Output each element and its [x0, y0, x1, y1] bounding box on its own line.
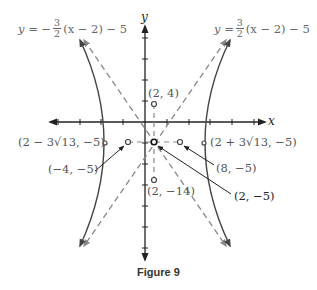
x-axis-label: x — [268, 114, 275, 128]
point-top — [152, 102, 157, 107]
label-focus-left: (2 − 3√13, −5) — [18, 135, 105, 149]
eq-right-suffix: (x − 2) − 5 — [246, 22, 310, 36]
x-axis — [50, 119, 265, 125]
vertex-left — [126, 140, 131, 145]
label-focus-right: (2 + 3√13, −5) — [210, 135, 297, 149]
center-point — [151, 139, 157, 145]
figure-caption: Figure 9 — [0, 266, 317, 278]
point-bottom — [152, 178, 157, 183]
label-center: (2, −5) — [234, 189, 275, 203]
asymptote-right-equation: y = 3 2 (x − 2) − 5 — [214, 18, 310, 39]
eq-left-fraction: 3 2 — [53, 18, 61, 39]
eq-right-fraction: 3 2 — [236, 18, 244, 39]
eq-left-prefix: y = − — [18, 22, 51, 36]
y-axis — [142, 26, 148, 260]
y-axis-label: y — [141, 10, 148, 24]
vertex-right — [178, 140, 183, 145]
eq-right-prefix: y = — [214, 22, 234, 36]
label-vertex-right: (8, −5) — [216, 161, 257, 175]
asymptote-left-equation: y = − 3 2 (x − 2) − 5 — [18, 18, 127, 39]
eq-left-suffix: (x − 2) − 5 — [63, 22, 127, 36]
label-bottom-point: (2, −14) — [147, 184, 195, 198]
focus-right — [202, 141, 206, 145]
label-top-point: (2, 4) — [148, 86, 179, 100]
label-vertex-left: (−4, −5) — [48, 162, 98, 176]
